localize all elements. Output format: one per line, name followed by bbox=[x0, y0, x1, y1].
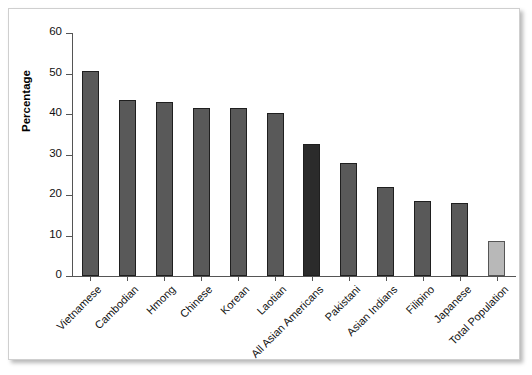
bar-vietnamese bbox=[82, 71, 99, 276]
x-tick bbox=[349, 276, 350, 281]
y-tick-label: 10 bbox=[49, 228, 62, 240]
x-tick bbox=[312, 276, 313, 281]
bar-korean bbox=[230, 108, 247, 276]
bar-all-asian-americans bbox=[303, 144, 320, 276]
bar-total-population bbox=[488, 241, 505, 276]
y-tick-label: 60 bbox=[49, 25, 62, 37]
x-tick bbox=[238, 276, 239, 281]
x-tick-label: All Asian Americans bbox=[249, 283, 326, 360]
x-tick bbox=[164, 276, 165, 281]
y-axis-title: Percentage bbox=[20, 114, 32, 132]
bar-hmong bbox=[156, 102, 173, 276]
bar-filipino bbox=[414, 201, 431, 276]
y-tick-label: 50 bbox=[49, 66, 62, 78]
x-tick bbox=[201, 276, 202, 281]
x-tick-label: Hmong bbox=[144, 283, 178, 317]
x-tick bbox=[497, 276, 498, 281]
x-tick bbox=[275, 276, 276, 281]
bar-cambodian bbox=[119, 100, 136, 276]
x-tick bbox=[460, 276, 461, 281]
y-tick-label: 30 bbox=[49, 147, 62, 159]
x-tick bbox=[423, 276, 424, 281]
x-tick-label: Chinese bbox=[178, 283, 215, 320]
x-tick-label: Filipino bbox=[403, 283, 436, 316]
x-tick-label: Korean bbox=[218, 283, 252, 317]
plot-area bbox=[72, 33, 515, 276]
y-tick-label: 0 bbox=[56, 268, 62, 280]
x-tick bbox=[127, 276, 128, 281]
bar-laotian bbox=[267, 113, 284, 276]
x-tick bbox=[90, 276, 91, 281]
x-tick-label: Laotian bbox=[255, 283, 289, 317]
bar-pakistani bbox=[340, 163, 357, 276]
x-axis-line bbox=[72, 276, 516, 277]
bar-chinese bbox=[193, 108, 210, 276]
chart-panel: Percentage 0102030405060 VietnameseCambo… bbox=[8, 8, 520, 360]
bar-asian-indians bbox=[377, 187, 394, 276]
y-tick-label: 20 bbox=[49, 187, 62, 199]
chart-figure: Percentage 0102030405060 VietnameseCambo… bbox=[0, 0, 532, 375]
x-tick bbox=[386, 276, 387, 281]
y-tick: 0 bbox=[66, 276, 72, 277]
y-tick-label: 40 bbox=[49, 106, 62, 118]
bar-japanese bbox=[451, 203, 468, 276]
